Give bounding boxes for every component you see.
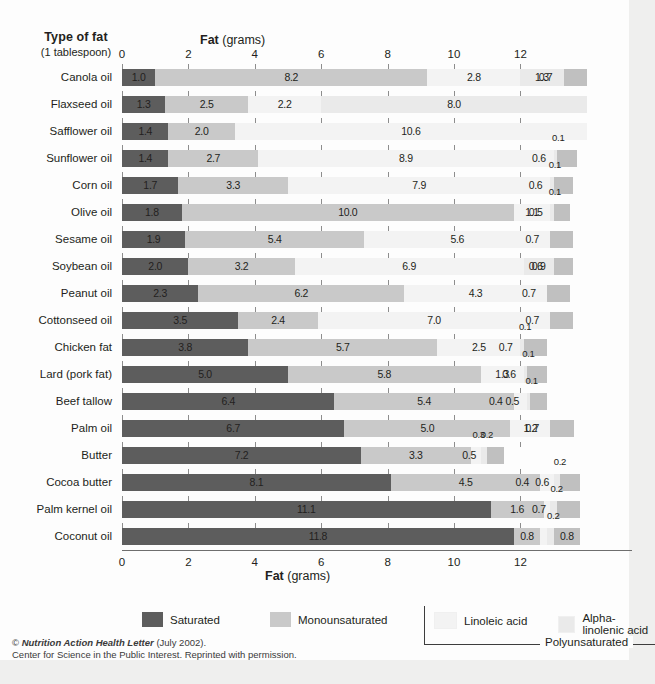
bar-row[interactable]: Olive oil1.810.01.10.50.1 [122, 199, 632, 226]
bar-segment-monounsaturated[interactable]: 5.7 [248, 339, 437, 356]
bar-segment-linoleic-acid[interactable]: 6.9 [295, 258, 524, 275]
bar-segment-monounsaturated[interactable]: 3.2 [188, 258, 294, 275]
x-tick-label-top: 4 [252, 48, 258, 60]
stacked-bar: 11.11.60.7 [122, 501, 580, 518]
bar-segment-alpha-linolenic-acid[interactable]: 8.0 [321, 96, 587, 113]
row-axis-header: Type of fat (1 tablespoon) [22, 30, 130, 58]
x-tick-label-top: 0 [119, 48, 125, 60]
segment-value-label: 8.0 [321, 96, 587, 113]
bar-segment-other[interactable]: 0.5 [554, 204, 571, 221]
bar-segment-saturated[interactable]: 1.8 [122, 204, 182, 221]
x-tick-label-top: 12 [514, 48, 527, 60]
bar-segment-monounsaturated[interactable]: 3.3 [178, 177, 288, 194]
bar-segment-linoleic-acid[interactable]: 2.2 [248, 96, 321, 113]
segment-value-label-above: 0.1 [549, 160, 561, 170]
bar-segment-other[interactable]: 0.6 [554, 258, 574, 275]
bar-segment-monounsaturated[interactable]: 0.8 [514, 528, 541, 545]
bar-segment-saturated[interactable]: 3.5 [122, 312, 238, 329]
bar-segment-other[interactable]: 0.7 [564, 69, 587, 86]
page-edge-bottom [0, 660, 655, 684]
bar-segment-saturated[interactable]: 1.4 [122, 150, 168, 167]
bar-segment-other[interactable]: 0.5 [530, 393, 547, 410]
bar-segment-monounsaturated[interactable]: 3.3 [361, 447, 471, 464]
bar-segment-saturated[interactable]: 1.4 [122, 123, 168, 140]
segment-value-label: 5.7 [248, 339, 437, 356]
bar-segment-other[interactable]: 0.5 [487, 447, 504, 464]
bar-segment-saturated[interactable]: 2.3 [122, 285, 198, 302]
bar-segment-saturated[interactable]: 7.2 [122, 447, 361, 464]
bar-segment-other[interactable]: 0.7 [547, 285, 570, 302]
bar-segment-monounsaturated[interactable]: 2.0 [168, 123, 234, 140]
bar-segment-monounsaturated[interactable]: 6.2 [198, 285, 404, 302]
bar-segment-saturated[interactable]: 5.0 [122, 366, 288, 383]
bar-segment-linoleic-acid[interactable]: 2.8 [427, 69, 520, 86]
bar-row[interactable]: Cottonseed oil3.52.47.00.7 [122, 307, 632, 334]
segment-value-label: 0.7 [532, 69, 560, 86]
row-category-label: Sunflower oil [46, 145, 112, 172]
legend-item-saturated[interactable]: Saturated [142, 612, 220, 627]
segment-value-label-above: 0.2 [554, 457, 566, 467]
bar-row[interactable]: Peanut oil2.36.24.30.7 [122, 280, 632, 307]
bar-row[interactable]: Sesame oil1.95.45.60.7 [122, 226, 632, 253]
stacked-bar: 5.05.81.30.6 [122, 366, 547, 383]
bar-segment-saturated[interactable]: 6.7 [122, 420, 344, 437]
bar-segment-saturated[interactable]: 8.1 [122, 474, 391, 491]
legend-item-monounsaturated[interactable]: Monounsaturated [270, 612, 388, 627]
bar-row[interactable]: Soybean oil2.03.26.90.90.6 [122, 253, 632, 280]
x-tick-label-bottom: 2 [185, 556, 191, 568]
segment-value-label: 1.4 [122, 123, 168, 140]
publication-name: Nutrition Action Health Letter [22, 637, 154, 648]
bar-segment-saturated[interactable]: 1.3 [122, 96, 165, 113]
bar-segment-other[interactable]: 0.7 [550, 312, 573, 329]
bar-segment-other[interactable]: 0.8 [554, 528, 581, 545]
bar-segment-saturated[interactable]: 6.4 [122, 393, 334, 410]
bar-segment-saturated[interactable]: 1.0 [122, 69, 155, 86]
bar-segment-monounsaturated[interactable]: 2.4 [238, 312, 318, 329]
segment-value-label: 1.3 [122, 96, 165, 113]
bar-segment-saturated[interactable]: 1.9 [122, 231, 185, 248]
bar-segment-alpha-linolenic-acid[interactable] [547, 528, 554, 545]
bar-row[interactable]: Chicken fat3.85.72.50.70.1 [122, 334, 632, 361]
bar-segment-saturated[interactable]: 1.7 [122, 177, 178, 194]
bar-segment-linoleic-acid[interactable] [540, 528, 547, 545]
bar-segment-monounsaturated[interactable]: 8.2 [155, 69, 427, 86]
segment-value-label: 0.5 [498, 393, 526, 410]
stacked-bar: 1.42.010.6 [122, 123, 587, 140]
segment-value-label: 0.7 [518, 231, 546, 248]
segment-value-label: 0.5 [455, 447, 483, 464]
bar-segment-other[interactable]: 0.6 [560, 474, 580, 491]
bar-row[interactable]: Beef tallow6.45.40.40.50.1 [122, 388, 632, 415]
segment-value-label-above: 0.1 [522, 349, 534, 359]
bar-segment-linoleic-acid[interactable]: 7.9 [288, 177, 550, 194]
bar-segment-linoleic-acid[interactable]: 8.9 [258, 150, 553, 167]
bar-segment-monounsaturated[interactable]: 5.4 [185, 231, 364, 248]
bar-segment-other[interactable]: 0.7 [550, 231, 573, 248]
row-category-label: Soybean oil [52, 253, 112, 280]
bar-segment-other[interactable]: 0.7 [557, 501, 580, 518]
bar-segment-monounsaturated[interactable]: 5.8 [288, 366, 481, 383]
x-tick-label-bottom: 0 [119, 556, 125, 568]
segment-value-label: 2.3 [122, 285, 198, 302]
bar-segment-monounsaturated[interactable]: 2.5 [165, 96, 248, 113]
bar-segment-saturated[interactable]: 11.1 [122, 501, 491, 518]
bar-row[interactable]: Canola oil1.08.22.81.30.7 [122, 64, 632, 91]
bar-segment-linoleic-acid[interactable]: 7.0 [318, 312, 550, 329]
bar-segment-saturated[interactable]: 11.8 [122, 528, 514, 545]
bar-segment-monounsaturated[interactable]: 10.0 [182, 204, 514, 221]
bar-segment-monounsaturated[interactable]: 2.7 [168, 150, 258, 167]
bar-row[interactable]: Palm oil6.75.01.20.7 [122, 415, 632, 442]
segment-value-label-above: 0.2 [550, 484, 562, 494]
bar-segment-saturated[interactable]: 3.8 [122, 339, 248, 356]
bar-row[interactable]: Flaxseed oil1.32.52.28.0 [122, 91, 632, 118]
bar-row[interactable]: Lard (pork fat)5.05.81.30.60.1 [122, 361, 632, 388]
publication-date: (July 2002). [154, 637, 206, 648]
segment-value-label: 11.1 [122, 501, 491, 518]
segment-value-label: 1.4 [122, 150, 168, 167]
row-category-label: Coconut oil [54, 523, 112, 550]
segment-value-label: 0.8 [514, 528, 541, 545]
bar-row[interactable]: Coconut oil11.80.80.80.2 [122, 523, 632, 550]
bar-segment-other[interactable]: 0.7 [550, 420, 573, 437]
segment-value-label: 0.7 [492, 339, 520, 356]
bar-segment-linoleic-acid[interactable]: 10.6 [235, 123, 587, 140]
bar-segment-saturated[interactable]: 2.0 [122, 258, 188, 275]
